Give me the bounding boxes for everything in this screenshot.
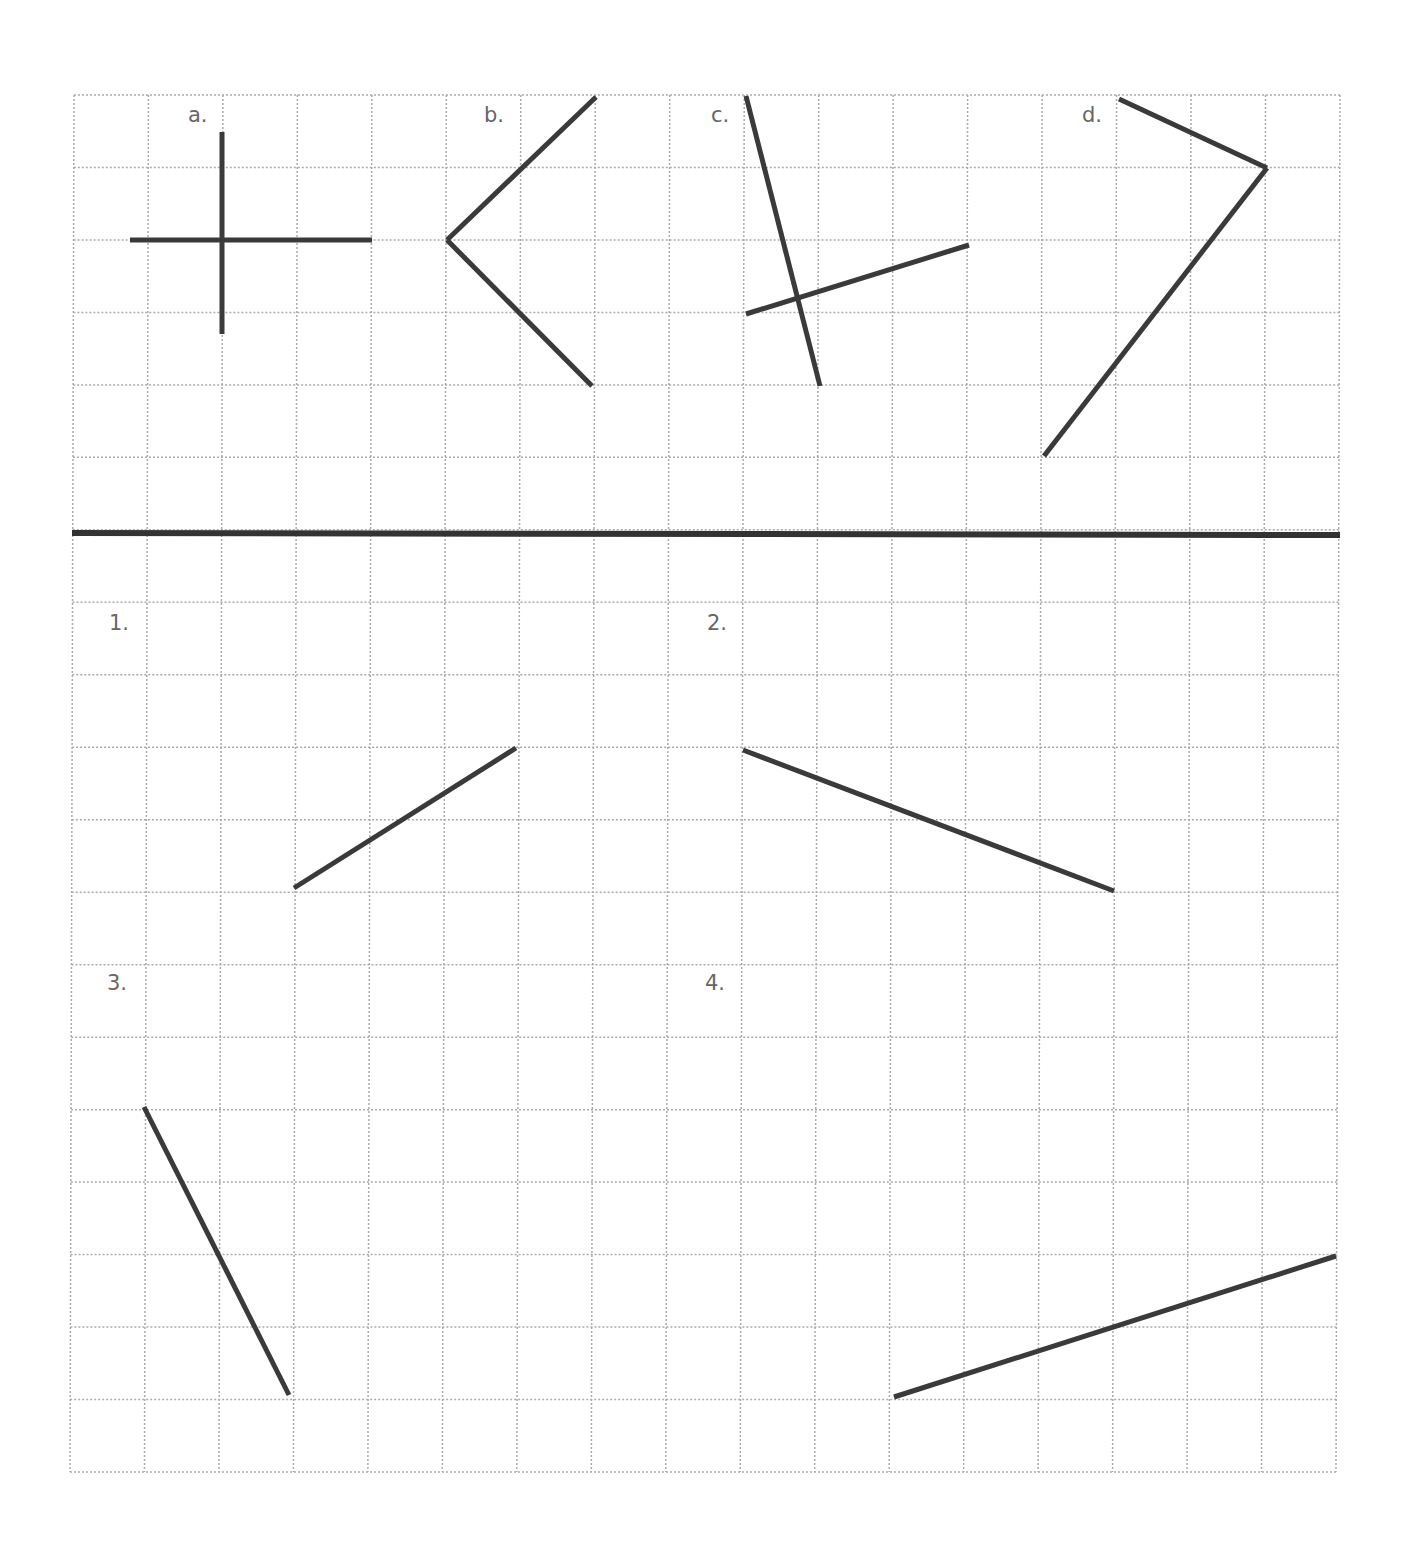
line-segment — [447, 97, 596, 240]
grid-line-vertical — [1336, 95, 1340, 1472]
line-segment — [294, 748, 516, 888]
example-label: d. — [1082, 103, 1102, 127]
example-3: c. — [711, 96, 969, 386]
dotted-grid — [70, 95, 1340, 1472]
grid-line-vertical — [70, 95, 74, 1472]
line-segment — [746, 245, 969, 314]
line-segment — [746, 96, 820, 386]
figures: a.b.c.d.1.2.3.4. — [107, 96, 1336, 1397]
example-label: a. — [188, 103, 208, 127]
line-segment — [144, 1107, 289, 1395]
line-segment — [743, 750, 1114, 891]
line-segment — [1119, 99, 1267, 168]
problem-label: 1. — [109, 611, 129, 635]
grid-line-vertical — [517, 95, 521, 1472]
grid-line-vertical — [293, 95, 297, 1472]
section-divider — [72, 533, 1340, 535]
grid-line-vertical — [1038, 95, 1042, 1472]
example-1: a. — [130, 103, 372, 334]
grid-worksheet: a.b.c.d.1.2.3.4. — [0, 0, 1409, 1554]
problem-label: 4. — [705, 971, 725, 995]
grid-line-vertical — [144, 95, 148, 1472]
grid-line-vertical — [1262, 95, 1266, 1472]
example-label: c. — [711, 103, 729, 127]
example-4: d. — [1044, 99, 1267, 456]
problem-4: 4. — [705, 971, 1336, 1397]
problem-label: 2. — [707, 611, 727, 635]
grid-line-vertical — [368, 95, 372, 1472]
grid-line-vertical — [591, 95, 595, 1472]
problem-1: 1. — [109, 611, 516, 888]
grid-line-vertical — [815, 95, 819, 1472]
grid-line-vertical — [1187, 95, 1191, 1472]
grid-line-vertical — [964, 95, 968, 1472]
grid-line-vertical — [442, 95, 446, 1472]
grid-line-vertical — [1113, 95, 1117, 1472]
problem-3: 3. — [107, 971, 289, 1395]
grid-line-vertical — [666, 95, 670, 1472]
example-label: b. — [484, 103, 504, 127]
grid-line-vertical — [740, 95, 744, 1472]
example-2: b. — [447, 97, 596, 386]
problem-label: 3. — [107, 971, 127, 995]
problem-2: 2. — [707, 611, 1114, 891]
grid-line-vertical — [889, 95, 893, 1472]
